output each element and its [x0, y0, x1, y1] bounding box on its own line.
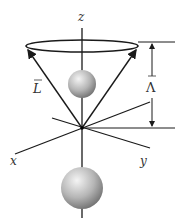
z-axis-label: z — [77, 10, 85, 24]
lambda-dimension — [138, 42, 175, 126]
x-axis-label: x — [10, 154, 17, 168]
l-vector-label: L — [32, 81, 42, 96]
upper-sphere — [68, 70, 96, 98]
origin-dot — [80, 126, 84, 130]
precession-diagram: z L Λ x y — [0, 0, 183, 224]
y-axis-line — [52, 118, 150, 148]
lower-sphere — [61, 167, 103, 209]
y-axis-label: y — [139, 154, 147, 168]
lambda-label: Λ — [145, 80, 156, 95]
